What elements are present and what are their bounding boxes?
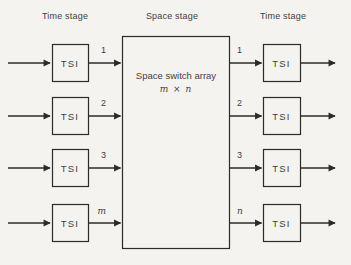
space-box-size: m × n xyxy=(122,84,230,94)
left-tsi-label-1: TSI xyxy=(52,45,88,82)
diagram-canvas: Time stage Space stage Time stage TSI TS… xyxy=(0,0,351,265)
right-tsi-label-1: TSI xyxy=(263,45,300,82)
link-label-left-1: 1 xyxy=(84,45,106,55)
left-tsi-label-4: TSI xyxy=(52,205,88,242)
space-switch-box xyxy=(123,37,230,249)
link-label-right-2: 2 xyxy=(237,98,259,108)
right-tsi-label-3: TSI xyxy=(263,150,300,187)
left-tsi-label-3: TSI xyxy=(52,150,88,187)
right-tsi-label-2: TSI xyxy=(263,98,300,135)
header-space-stage: Space stage xyxy=(135,11,209,21)
header-time-stage-right: Time stage xyxy=(246,11,320,21)
link-label-left-2: 2 xyxy=(84,98,106,108)
left-tsi-label-2: TSI xyxy=(52,98,88,135)
link-label-right-3: 3 xyxy=(237,150,259,160)
right-tsi-label-4: TSI xyxy=(263,205,300,242)
link-label-right-1: 1 xyxy=(237,45,259,55)
header-time-stage-left: Time stage xyxy=(28,11,102,21)
link-label-left-m: m xyxy=(84,206,106,216)
link-label-left-3: 3 xyxy=(84,150,106,160)
link-label-right-n: n xyxy=(237,206,259,216)
space-box-title: Space switch array xyxy=(122,70,230,81)
